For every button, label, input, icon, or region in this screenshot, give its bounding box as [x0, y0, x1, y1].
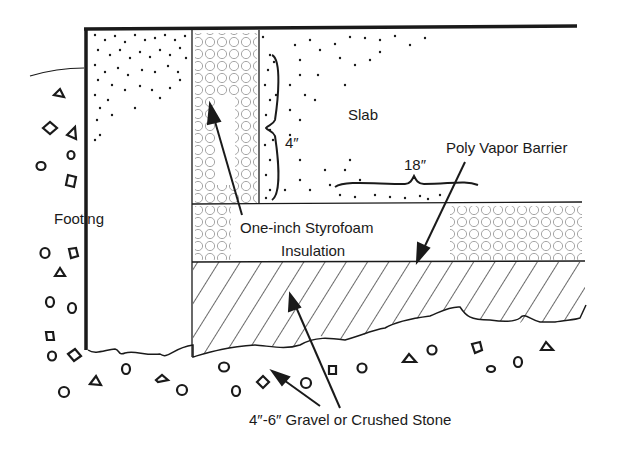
slab-label: Slab	[348, 107, 378, 122]
gravel-base-hatch	[193, 262, 588, 362]
footing-stipple	[94, 34, 187, 141]
slab-thickness-brace	[266, 55, 278, 200]
insulation-width-label: 18″	[404, 157, 426, 172]
insulation-label-line2: Insulation	[281, 243, 345, 258]
foundation-cross-section-diagram: Slab 4″ 18″ Poly Vapor Barrier Footing O…	[0, 0, 621, 451]
slab-top-line	[84, 26, 577, 29]
gravel-label: 4″-6″ Gravel or Crushed Stone	[249, 412, 451, 427]
slab-thickness-label: 4″	[285, 135, 299, 150]
horizontal-styrofoam-left	[195, 206, 231, 260]
footing-label: Footing	[54, 211, 104, 226]
insulation-label-line1: One-inch Styrofoam	[240, 220, 373, 235]
horizontal-styrofoam-right	[450, 206, 582, 260]
grade-line	[30, 68, 84, 76]
vapor-barrier-label: Poly Vapor Barrier	[446, 140, 567, 155]
